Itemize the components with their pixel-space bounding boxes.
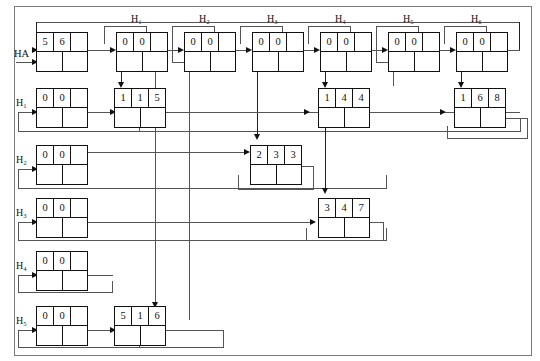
cell: 1: [319, 89, 336, 107]
wire-d168-out-down: [527, 118, 528, 138]
wire-row1-bus-right: [520, 118, 521, 131]
wire-row2-bus: [18, 188, 387, 189]
cell: [37, 271, 63, 290]
cell: [355, 33, 371, 51]
cell: [141, 108, 166, 127]
cell: [251, 165, 277, 184]
node-d115-bot-row: [115, 108, 165, 127]
node-left2[interactable]: 0 0: [36, 145, 88, 185]
cell: [423, 33, 439, 51]
wire-h4-loop-left: [308, 26, 309, 44]
label-left2: H₂: [16, 155, 27, 165]
node-hdr3[interactable]: 0 0: [252, 32, 304, 72]
node-d115[interactable]: 1 1 5: [114, 88, 166, 128]
wire-d516-out: [166, 330, 224, 331]
node-left4-bot-row: [37, 271, 87, 290]
cell: 0: [338, 33, 355, 51]
node-hdr1-top-row: 0 0: [117, 33, 167, 52]
node-d168-bot-row: [455, 108, 505, 127]
cell: 0: [321, 33, 338, 51]
wire-row2-bus-left: [18, 169, 19, 188]
node-left1[interactable]: 0 0: [36, 88, 88, 128]
node-d233[interactable]: 2 3 3: [250, 145, 302, 185]
node-left1-top-row: 0 0: [37, 89, 87, 108]
label-ha: HA: [14, 49, 29, 60]
wire-h1-loop-top: [104, 26, 146, 27]
wire-h2-down-long: [189, 70, 190, 320]
wire-row3-bus-right: [386, 228, 387, 240]
wire-left3-to-d347: [88, 222, 312, 223]
cell: 1: [115, 89, 132, 107]
cell: [71, 33, 87, 51]
node-hdr5[interactable]: 0 0: [388, 32, 440, 72]
node-hdr6-top-row: 0 0: [457, 33, 507, 52]
cell: 0: [54, 89, 71, 107]
cell: 0: [457, 33, 474, 51]
cell: [115, 326, 141, 345]
node-left3-bot-row: [37, 218, 87, 237]
cell: [37, 218, 63, 237]
cell: [37, 326, 63, 345]
wire-h5-loop-top: [376, 26, 418, 27]
node-d516[interactable]: 5 1 6: [114, 306, 166, 346]
wire-h6-loop-left: [444, 26, 445, 44]
node-d233-bot-row: [251, 165, 301, 184]
node-hdr5-top-row: 0 0: [389, 33, 439, 52]
wire-row2-bus-right: [386, 175, 387, 188]
label-hdr1: H₁: [131, 14, 142, 24]
node-left1-bot-row: [37, 108, 87, 127]
cell: 6: [149, 307, 165, 325]
node-left5[interactable]: 0 0: [36, 306, 88, 346]
wire-d144-down: [325, 126, 326, 190]
node-hdr6[interactable]: 0 0: [456, 32, 508, 72]
wire-h6-loop-top: [444, 26, 486, 27]
label-hdr3: H₃: [267, 14, 278, 24]
node-hdr4[interactable]: 0 0: [320, 32, 372, 72]
cell: [63, 165, 88, 184]
node-entry[interactable]: 5 6: [36, 32, 88, 72]
wire-h3-loop-top: [240, 26, 282, 27]
node-d347[interactable]: 3 4 7: [318, 198, 370, 238]
cell: 0: [37, 307, 54, 325]
cell: [37, 108, 63, 127]
cell: [141, 326, 166, 345]
wire-d516-stub-h: [139, 347, 155, 348]
node-hdr1[interactable]: 0 0: [116, 32, 168, 72]
label-hdr4: H₄: [335, 14, 346, 24]
node-left4[interactable]: 0 0: [36, 251, 88, 291]
cell: [483, 52, 508, 71]
node-d347-bot-row: [319, 218, 369, 237]
cell: 0: [185, 33, 202, 51]
cell: [117, 52, 143, 71]
arrow-h3-to-d233: [254, 134, 260, 140]
wire-left2-to-d233: [88, 152, 246, 153]
cell: 3: [319, 199, 336, 217]
node-d168-top-row: 1 6 8: [455, 89, 505, 108]
cell: 1: [132, 89, 149, 107]
cell: 3: [268, 146, 285, 164]
cell: [457, 52, 483, 71]
cell: 1: [455, 89, 472, 107]
node-d144-top-row: 1 4 4: [319, 89, 369, 108]
node-hdr2[interactable]: 0 0: [184, 32, 236, 72]
cell: [211, 52, 236, 71]
cell: [71, 199, 87, 217]
node-d144[interactable]: 1 4 4: [318, 88, 370, 128]
node-entry-top-row: 5 6: [37, 33, 87, 52]
cell: 0: [37, 146, 54, 164]
cell: 0: [37, 199, 54, 217]
cell: [321, 52, 347, 71]
cell: [491, 33, 507, 51]
cell: 5: [37, 33, 54, 51]
wire-left5-to-d516: [88, 330, 112, 331]
cell: 0: [54, 199, 71, 217]
wire-d516-out-down: [223, 330, 224, 347]
cell: [253, 52, 279, 71]
node-left5-top-row: 0 0: [37, 307, 87, 326]
label-hdr2: H₂: [199, 14, 210, 24]
node-d168[interactable]: 1 6 8: [454, 88, 506, 128]
cell: 0: [253, 33, 270, 51]
node-left3[interactable]: 0 0: [36, 198, 88, 238]
diagram-canvas: 5 6 0 0 0 0 0: [0, 0, 540, 361]
cell: [37, 52, 63, 71]
